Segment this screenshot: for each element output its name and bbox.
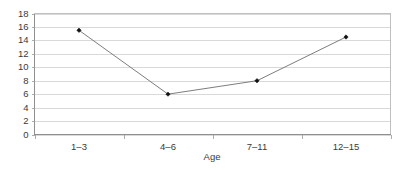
- x-tick-label: 4–6: [160, 141, 176, 152]
- x-tick-label: 7–11: [247, 141, 267, 152]
- y-tick-label: 0: [23, 129, 28, 140]
- y-tick-label: 8: [23, 75, 28, 86]
- y-tick-label: 4: [23, 102, 28, 113]
- x-tick-label: 1–3: [71, 141, 87, 152]
- y-tick-label: 14: [18, 34, 29, 45]
- y-tick-label: 10: [18, 61, 29, 72]
- y-tick-label: 18: [18, 8, 29, 19]
- line-chart: 024681012141618 1–34–67–1112–15 Age: [0, 0, 412, 171]
- y-tick-label: 2: [23, 115, 28, 126]
- x-axis-title: Age: [204, 151, 221, 162]
- x-tick-label: 12–15: [333, 141, 359, 152]
- chart-canvas: 024681012141618 1–34–67–1112–15 Age: [0, 0, 412, 171]
- y-tick-label: 16: [18, 21, 29, 32]
- y-tick-label: 6: [23, 88, 28, 99]
- y-tick-label: 12: [18, 48, 29, 59]
